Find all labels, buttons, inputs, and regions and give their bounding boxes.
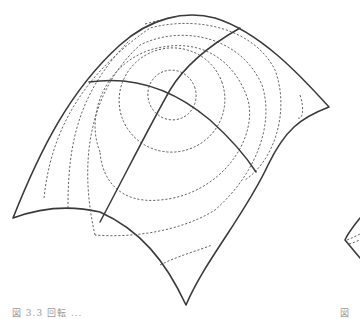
surface-boundary — [13, 15, 329, 305]
grid-line-v — [100, 28, 240, 222]
next-figure-caption: 図 — [340, 306, 350, 319]
contour-lines — [44, 16, 303, 265]
surface-figure — [0, 0, 360, 319]
figure-caption: 図 3.3 回転 ... — [12, 306, 82, 319]
grid-line-u — [89, 80, 256, 172]
